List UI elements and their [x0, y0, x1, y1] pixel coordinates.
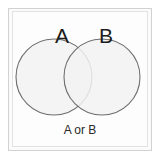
set-label-b: B [92, 25, 120, 46]
venn-diagram-figure: A B A or B [0, 0, 162, 164]
set-label-a: A [48, 25, 76, 46]
venn-circle-b [64, 39, 140, 115]
venn-caption: A or B [12, 123, 148, 137]
venn-plot-area: A B A or B [12, 11, 148, 147]
